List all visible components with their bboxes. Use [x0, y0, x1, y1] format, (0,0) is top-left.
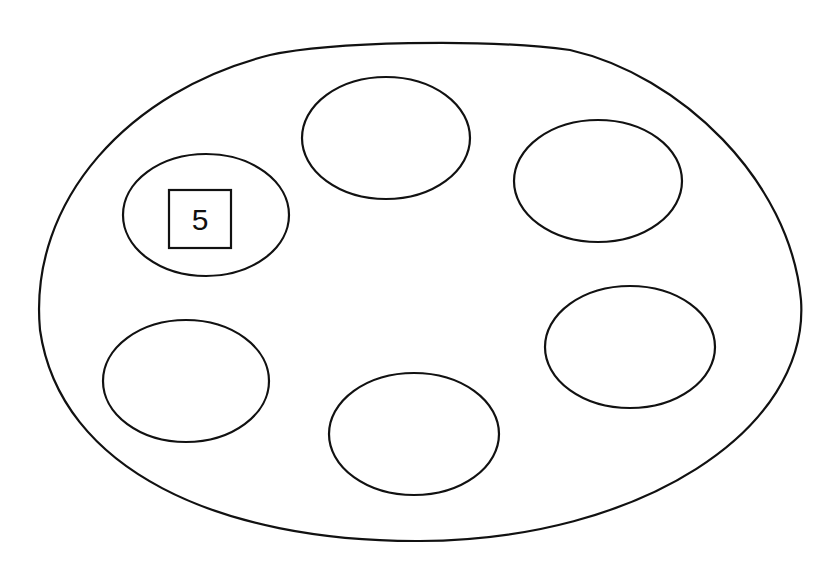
box-label-text: 5	[192, 203, 209, 236]
circle-top-center	[302, 77, 470, 199]
circle-right	[545, 286, 715, 408]
circle-top-right	[514, 120, 682, 242]
circle-bottom-center	[329, 373, 499, 495]
diagram-canvas: 5	[0, 0, 833, 571]
outer-oval	[39, 43, 801, 541]
circle-lower-left	[103, 320, 269, 442]
